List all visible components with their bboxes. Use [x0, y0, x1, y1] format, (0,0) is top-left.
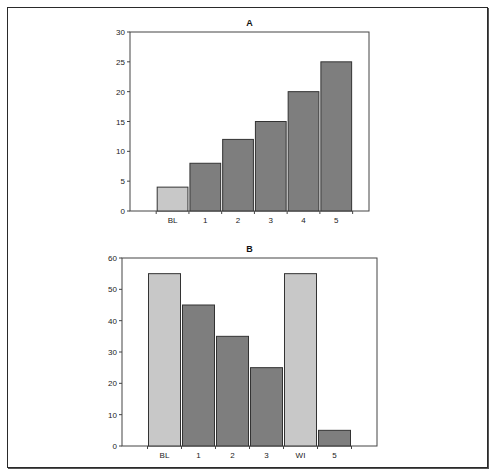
chart-title: B	[246, 244, 253, 254]
y-tick-label: 30	[108, 348, 117, 357]
y-tick-label: 20	[108, 379, 117, 388]
bar-2	[217, 336, 249, 446]
y-tick-label: 40	[108, 317, 117, 326]
bar-5	[319, 430, 351, 446]
y-tick-label: 50	[108, 285, 117, 294]
x-tick-label: 3	[264, 451, 269, 460]
bar-wi	[285, 274, 317, 446]
y-tick-label: 10	[108, 411, 117, 420]
x-tick-label: WI	[296, 451, 306, 460]
bar-1	[183, 305, 215, 446]
x-tick-label: BL	[160, 451, 170, 460]
bar-3	[251, 368, 283, 446]
x-tick-label: 1	[196, 451, 201, 460]
y-tick-label: 0	[113, 442, 118, 451]
x-tick-label: 5	[332, 451, 337, 460]
chart-b: B0102030405060BL123WI5	[0, 0, 495, 476]
bar-bl	[149, 274, 181, 446]
x-tick-label: 2	[230, 451, 235, 460]
y-tick-label: 60	[108, 254, 117, 263]
